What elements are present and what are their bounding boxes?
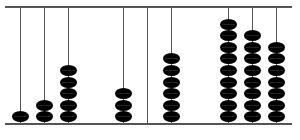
bead [163,111,180,122]
bead [244,53,261,64]
bead [115,111,132,122]
bead [36,111,53,122]
bead [163,88,180,99]
bead [115,100,132,111]
bead [244,65,261,76]
rod-5 [147,7,148,124]
bead [220,111,237,122]
abacus [0,0,300,140]
bead [244,88,261,99]
bead [268,88,285,99]
bead [36,100,53,111]
bead [220,77,237,88]
bead [220,65,237,76]
bead [220,88,237,99]
bead [60,100,77,111]
top-bar [5,6,292,8]
bead [244,30,261,41]
bead [268,42,285,53]
bead [268,53,285,64]
bead [220,30,237,41]
bead [268,77,285,88]
bead [268,100,285,111]
bead [60,65,77,76]
bead [115,88,132,99]
bead [268,111,285,122]
rod-1 [20,7,21,124]
bead [60,77,77,88]
bead [60,111,77,122]
bead [12,111,29,122]
bead [163,53,180,64]
bead [244,77,261,88]
bead [220,53,237,64]
bead [220,19,237,30]
bead [220,42,237,53]
bead [268,65,285,76]
bead [244,42,261,53]
bead [60,88,77,99]
bead [163,77,180,88]
bottom-bar [5,123,292,125]
bead [244,100,261,111]
bead [163,65,180,76]
bead [220,100,237,111]
bead [163,100,180,111]
bead [244,111,261,122]
